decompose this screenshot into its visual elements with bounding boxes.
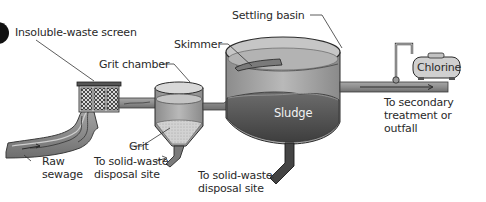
label-skimmer: Skimmer bbox=[174, 38, 222, 51]
label-sludge-disposal: To solid-waste disposal site bbox=[198, 169, 272, 195]
label-grit: Grit bbox=[129, 140, 149, 153]
label-grit-disposal: To solid-waste disposal site bbox=[94, 155, 168, 181]
outflow-pipe bbox=[340, 82, 448, 92]
label-raw-sewage: Raw sewage bbox=[42, 155, 83, 181]
label-outflow: To secondary treatment or outfall bbox=[384, 96, 454, 135]
section-marker-icon bbox=[0, 22, 9, 44]
wastewater-treatment-diagram: Insoluble-waste screen Grit chamber Skim… bbox=[0, 0, 486, 202]
label-settling-basin: Settling basin bbox=[232, 9, 305, 22]
label-grit-chamber: Grit chamber bbox=[99, 58, 169, 71]
label-insoluble-waste-screen: Insoluble-waste screen bbox=[15, 26, 137, 39]
pipe-screen-to-grit bbox=[119, 98, 156, 108]
label-sludge: Sludge bbox=[274, 107, 312, 120]
label-chlorine: Chlorine bbox=[417, 61, 461, 74]
insoluble-waste-screen bbox=[77, 82, 121, 112]
